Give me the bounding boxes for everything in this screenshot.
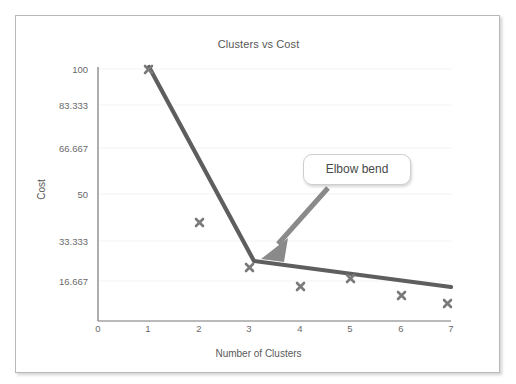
chart-card: Clusters vs Cost Cost Number of Clusters…	[15, 15, 500, 373]
annotation-arrow	[261, 188, 328, 262]
annotation-callout-label: Elbow bend	[304, 155, 410, 184]
data-point-marker	[398, 292, 405, 299]
data-point-marker	[444, 300, 451, 307]
plot-svg	[16, 16, 501, 374]
chart-container: Clusters vs Cost Cost Number of Clusters…	[16, 16, 501, 374]
data-point-marker	[246, 264, 253, 271]
data-markers	[145, 66, 451, 307]
screenshot-root: Clusters vs Cost Cost Number of Clusters…	[0, 0, 516, 384]
data-point-marker	[196, 219, 203, 226]
data-point-marker	[297, 283, 304, 290]
annotation-callout: Elbow bend	[303, 154, 411, 185]
